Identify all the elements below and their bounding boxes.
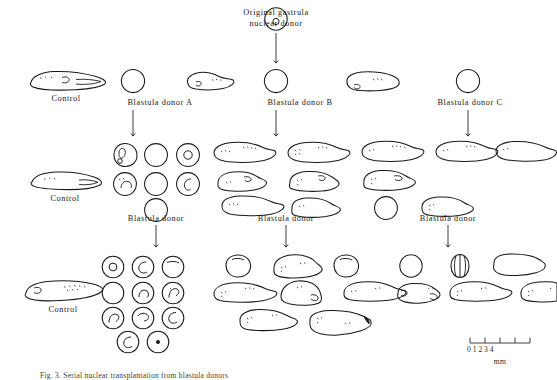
row2-control-embryo — [31, 172, 101, 190]
row3-split-egg — [451, 255, 469, 278]
row3-grid-b — [214, 255, 406, 335]
scale-tick-labels: 01234 — [467, 345, 496, 354]
row1-control-label: Control — [51, 94, 80, 103]
row3-grid-a — [102, 256, 184, 353]
scale-tick-4: 4 — [490, 345, 496, 354]
row1-blob-b — [347, 72, 399, 91]
row2-donor-label-c: Blastula donor — [420, 214, 476, 223]
row1-donorC-label: Blastula donor C — [437, 98, 502, 107]
row2-grid-c — [436, 141, 556, 161]
row3-grid-c — [398, 254, 557, 303]
row1-donorB-label: Blastula donor B — [267, 98, 332, 107]
row1-donorC-egg — [456, 69, 479, 92]
row2-control-label: Control — [50, 194, 79, 203]
scale-bar — [470, 338, 530, 344]
row1-donorA-label: Blastula donor A — [127, 98, 192, 107]
row2-grid-a — [114, 144, 200, 222]
row2-donor-label-b: Blastula donor — [258, 214, 314, 223]
original-donor-title-line2: nuclear donor — [250, 19, 303, 28]
original-donor-title-line1: Original gastrula — [243, 8, 308, 17]
row2-donor-label-a: Blastula donor — [128, 214, 184, 223]
row1-blob-a — [187, 72, 233, 90]
row3-control-embryo — [25, 281, 102, 301]
row2-grid-b — [214, 141, 473, 219]
row1-donorB-egg — [264, 69, 287, 92]
row1-donorA-egg — [121, 69, 144, 92]
scale-unit-label: mm — [494, 357, 507, 366]
row1-control-embryo — [30, 71, 105, 90]
figure-caption: Fig. 3. Serial nuclear transplantation f… — [40, 371, 228, 380]
row3-control-label: Control — [48, 305, 77, 314]
